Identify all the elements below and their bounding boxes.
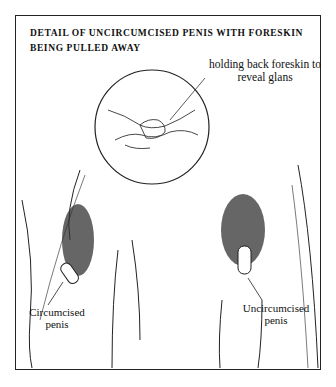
label-circumcised: Circumcised penis [22, 306, 92, 330]
callout-label-holding-back-foreskin: holding back foreskin to reveal glans [205, 58, 325, 84]
label-uncircumcised: Uncircumcised penis [236, 302, 316, 326]
detail-circle [95, 70, 209, 184]
